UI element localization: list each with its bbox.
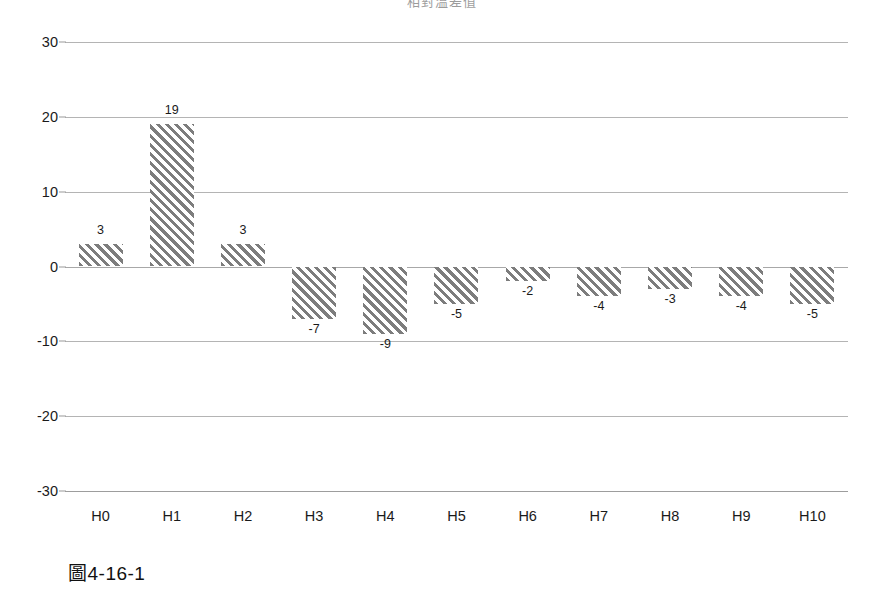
bar-group: -3 [634,42,705,491]
bar-value-label: -3 [664,292,675,306]
y-axis-tick-mark [59,341,66,342]
y-axis-tick-label: 10 [0,184,58,200]
bar-value-label: -9 [380,337,391,351]
x-axis-tick-label: H7 [590,508,609,524]
bar-value-label: -5 [807,307,818,321]
bar-value-label: 3 [97,223,104,237]
x-axis-tick-label: H8 [661,508,680,524]
bar[interactable] [577,267,621,297]
x-axis-tick-label: H4 [376,508,395,524]
x-axis-labels: H0H1H2H3H4H5H6H7H8H9H10 [65,508,848,530]
bar-group: 3 [65,42,136,491]
bar-group: -4 [563,42,634,491]
x-axis-tick-label: H5 [447,508,466,524]
bar[interactable] [150,124,194,266]
y-axis-tick-mark [59,491,66,492]
bar[interactable] [790,267,834,304]
x-axis-line [65,491,848,492]
bar-value-label: -4 [736,299,747,313]
bar[interactable] [363,267,407,334]
bar-group: -5 [421,42,492,491]
bar[interactable] [79,244,123,266]
bar-value-label: 19 [165,103,179,117]
bar-value-label: -7 [309,322,320,336]
figure-caption: 圖4-16-1 [68,558,145,585]
y-axis-tick-label: 20 [0,109,58,125]
y-axis-tick-label: 0 [0,259,58,275]
bar-value-label: -5 [451,307,462,321]
y-axis-tick-mark [59,116,66,117]
bar-group: -7 [279,42,350,491]
bar-group: 3 [207,42,278,491]
plot-area: 3193-7-9-5-2-4-3-4-5 [65,42,848,491]
bar-value-label: -2 [522,284,533,298]
bar-group: -5 [777,42,848,491]
chart-figure: 相對溫差值 3193-7-9-5-2-4-3-4-5 H0H1H2H3H4H5H… [0,0,883,616]
y-axis-tick-label: -30 [0,483,58,499]
bar-group: -4 [706,42,777,491]
bar[interactable] [292,267,336,319]
bar[interactable] [221,244,265,266]
bar[interactable] [648,267,692,289]
y-axis-tick-label: 30 [0,34,58,50]
x-axis-tick-label: H9 [732,508,751,524]
bar[interactable] [719,267,763,297]
y-axis-tick-label: -10 [0,333,58,349]
y-axis-tick-mark [59,42,66,43]
x-axis-tick-label: H3 [305,508,324,524]
bar-group: 19 [136,42,207,491]
x-axis-tick-label: H6 [518,508,537,524]
x-axis-tick-label: H0 [91,508,110,524]
y-axis-tick-mark [59,266,66,267]
bar[interactable] [506,267,550,282]
y-axis-tick-label: -20 [0,408,58,424]
chart-title: 相對溫差值 [0,0,883,10]
bar-group: -9 [350,42,421,491]
y-axis-tick-mark [59,191,66,192]
y-axis-tick-mark [59,416,66,417]
bar-value-label: 3 [239,223,246,237]
x-axis-tick-label: H10 [799,508,826,524]
x-axis-tick-label: H1 [162,508,181,524]
bar-group: -2 [492,42,563,491]
bar-value-label: -4 [593,299,604,313]
bar[interactable] [434,267,478,304]
x-axis-tick-label: H2 [234,508,253,524]
